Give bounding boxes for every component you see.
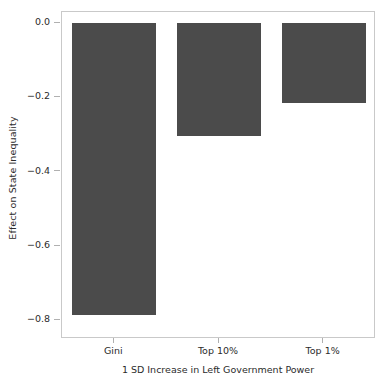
bar-gini (72, 23, 156, 315)
x-axis-title: 1 SD Increase in Left Government Power (61, 364, 375, 376)
x-tick-label-top-1-percent: Top 1% (263, 345, 383, 357)
x-tick-mark-0 (113, 338, 114, 343)
y-tick-label-2: −0.4 (6, 166, 50, 176)
plot-area (61, 11, 375, 338)
y-tick-mark-4 (54, 319, 60, 320)
y-tick-mark-1 (54, 96, 60, 97)
bar-chart-figure: Effect on State Inequality 0.0 −0.2 −0.4… (0, 0, 386, 391)
x-tick-label-top-10-percent: Top 10% (158, 345, 278, 357)
x-tick-0: Gini (53, 338, 173, 360)
y-tick-mark-2 (54, 170, 60, 171)
y-tick-label-3: −0.6 (6, 240, 50, 250)
y-tick-1: −0.2 (0, 91, 61, 101)
y-tick-2: −0.4 (0, 166, 61, 176)
y-axis-title: Effect on State Inequality (6, 18, 20, 338)
x-tick-mark-1 (218, 338, 219, 343)
y-tick-mark-3 (54, 245, 60, 246)
y-tick-4: −0.8 (0, 314, 61, 324)
bar-top-10-percent (177, 23, 261, 136)
x-tick-1: Top 10% (158, 338, 278, 360)
y-tick-3: −0.6 (0, 240, 61, 250)
y-tick-label-4: −0.8 (6, 314, 50, 324)
y-tick-label-1: −0.2 (6, 91, 50, 101)
x-tick-mark-2 (322, 338, 323, 343)
x-tick-2: Top 1% (263, 338, 383, 360)
y-tick-label-0: 0.0 (6, 17, 50, 27)
y-tick-0: 0.0 (0, 17, 61, 27)
x-tick-label-gini: Gini (53, 345, 173, 357)
bar-top-1-percent (282, 23, 366, 103)
y-tick-mark-0 (54, 22, 60, 23)
